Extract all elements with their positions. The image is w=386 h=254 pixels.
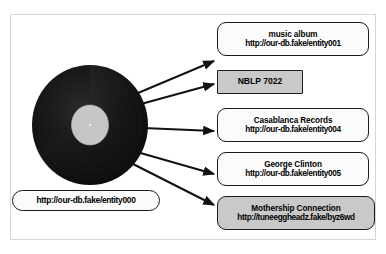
- node-external-link-title: Mothership Connection: [251, 204, 340, 213]
- node-artist-uri: http://our-db.fake/entity005: [245, 169, 340, 178]
- node-music-album-uri: http://our-db.fake/entity001: [245, 39, 340, 48]
- node-record-label-uri: http://our-db.fake/entity004: [245, 125, 340, 134]
- node-external-link-uri: http://tuneeggheadz.fake/byz6wd: [237, 213, 354, 222]
- node-record-label-title: Casablanca Records: [254, 116, 333, 125]
- node-external-link[interactable]: Mothership Connection http://tuneegghead…: [217, 196, 375, 230]
- node-catalog-number-title: NBLP 7022: [238, 77, 283, 87]
- node-subject-entity000[interactable]: http://our-db.fake/entity000: [12, 190, 160, 211]
- node-music-album-title: music album: [269, 30, 318, 39]
- node-music-album[interactable]: music album http://our-db.fake/entity001: [217, 22, 369, 56]
- connector-to-artist: [137, 152, 214, 174]
- diagram-canvas: http://our-db.fake/entity000 music album…: [0, 0, 386, 254]
- vinyl-record-icon: [32, 65, 148, 185]
- node-artist[interactable]: George Clinton http://our-db.fake/entity…: [217, 152, 369, 186]
- node-artist-title: George Clinton: [264, 160, 322, 169]
- node-record-label[interactable]: Casablanca Records http://our-db.fake/en…: [217, 108, 369, 142]
- connector-to-label: [143, 128, 214, 131]
- node-catalog-number[interactable]: NBLP 7022: [217, 70, 303, 94]
- connector-to-type: [138, 61, 214, 93]
- node-subject-uri: http://our-db.fake/entity000: [36, 196, 135, 205]
